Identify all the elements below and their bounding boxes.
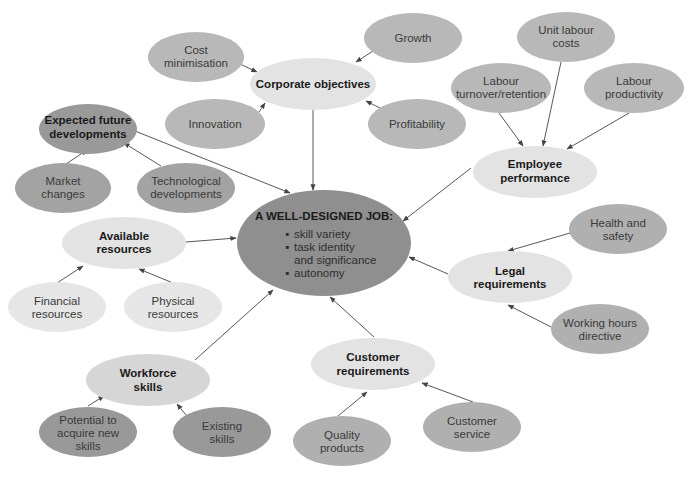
node-customer-service: Customer service	[423, 402, 521, 452]
label-line: acquire new	[57, 427, 120, 439]
label-line: skills	[134, 381, 163, 393]
label-line: Labour	[483, 75, 519, 87]
arrow-legal-to-central	[409, 257, 448, 274]
arrow-turnover-to-employee	[499, 113, 523, 146]
label-line: Health and	[590, 217, 646, 229]
label-line: Financial	[34, 295, 80, 307]
label-line: skills	[210, 433, 235, 445]
label-line: Working hours	[563, 317, 637, 329]
node-expected-future-developments: Expected future developments	[39, 104, 137, 154]
label-line: products	[320, 442, 364, 454]
bullet-significance: and significance	[294, 254, 376, 266]
label-line: Expected future	[45, 114, 132, 126]
node-labour-productivity: Labour productivity	[584, 63, 684, 113]
node-existing-skills: Existing skills	[173, 407, 271, 457]
arrow-innovation-to-corporate	[259, 103, 265, 112]
bullet-marker: ▪	[285, 228, 289, 240]
label-line: Innovation	[188, 118, 241, 130]
label-line: Workforce	[120, 367, 177, 379]
node-growth: Growth	[364, 13, 462, 63]
label-line: Technological	[151, 175, 221, 187]
label-line: Cost	[184, 44, 208, 56]
arrow-employee-to-central	[403, 168, 471, 221]
label-line: Customer	[447, 415, 497, 427]
label-line: minimisation	[164, 57, 228, 69]
node-customer-requirements: Customer requirements	[311, 338, 435, 390]
label-line: Quality	[324, 429, 360, 441]
bullet-marker: ▪	[285, 267, 289, 279]
label-line: requirements	[474, 278, 547, 290]
label-line: Potential to	[59, 414, 117, 426]
node-innovation: Innovation	[165, 99, 265, 149]
bullet-task-identity: task identity	[294, 241, 355, 253]
label-line: productivity	[605, 88, 663, 100]
label-line: resources	[148, 308, 199, 320]
label-line: resources	[97, 243, 152, 255]
arrow-potential-to-workforce	[88, 396, 104, 406]
label-line: Unit labour	[538, 24, 594, 36]
arrow-cost-to-corporate	[240, 64, 257, 72]
node-workforce-skills: Workforce skills	[86, 354, 210, 406]
node-labour-turnover: Labour turnover/retention	[451, 63, 551, 113]
label-line: performance	[500, 172, 570, 184]
label-line: Market	[45, 175, 81, 187]
node-profitability: Profitability	[368, 99, 466, 149]
arrow-existing-to-workforce	[177, 404, 186, 415]
arrow-customer-to-central	[330, 297, 374, 337]
label-line: Employee	[508, 158, 562, 170]
label-line: skills	[76, 440, 101, 452]
label-line: Legal	[495, 265, 525, 277]
arrow-unitlabour-to-employee	[543, 62, 561, 146]
bullet-skill-variety: skill variety	[294, 228, 350, 240]
label-line: safety	[603, 230, 634, 242]
node-health-and-safety: Health and safety	[569, 204, 667, 254]
label-line: Customer	[346, 351, 400, 363]
arrow-working-to-legal	[508, 305, 551, 327]
label-line: costs	[553, 37, 580, 49]
label-line: requirements	[337, 365, 410, 377]
label-line: turnover/retention	[456, 88, 546, 100]
node-potential-new-skills: Potential to acquire new skills	[39, 407, 137, 457]
arrow-profitability-to-corporate	[366, 101, 380, 108]
arrow-physical-to-available	[139, 269, 173, 283]
arrow-financial-to-available	[57, 266, 83, 283]
arrow-quality-to-customer	[338, 392, 367, 416]
bullet-marker: ▪	[285, 241, 289, 253]
node-physical-resources: Physical resources	[124, 282, 222, 332]
job-design-diagram: Cost minimisation Growth Corporate objec…	[0, 0, 693, 477]
label-line: service	[454, 428, 490, 440]
bullet-autonomy: autonomy	[294, 267, 345, 279]
node-cost-minimisation: Cost minimisation	[148, 32, 244, 82]
central-title: A WELL-DESIGNED JOB:	[255, 210, 393, 222]
label-line: Labour	[616, 75, 652, 87]
node-financial-resources: Financial resources	[8, 282, 106, 332]
arrow-growth-to-corporate	[356, 51, 373, 62]
label-line: resources	[32, 308, 83, 320]
node-unit-labour-costs: Unit labour costs	[517, 12, 615, 62]
label-line: developments	[49, 128, 126, 140]
node-employee-performance: Employee performance	[473, 146, 597, 198]
node-well-designed-job: A WELL-DESIGNED JOB: ▪ skill variety ▪ t…	[237, 190, 411, 296]
node-legal-requirements: Legal requirements	[448, 251, 572, 303]
arrow-available-to-central	[186, 238, 236, 242]
label-line: Available	[99, 230, 149, 242]
node-working-hours-directive: Working hours directive	[551, 304, 649, 354]
label-line: Physical	[152, 295, 195, 307]
label-line: changes	[41, 188, 85, 200]
node-market-changes: Market changes	[15, 163, 111, 213]
node-available-resources: Available resources	[62, 217, 186, 269]
node-quality-products: Quality products	[293, 416, 391, 466]
label-line: directive	[579, 330, 622, 342]
label-line: Existing	[202, 420, 242, 432]
node-technological-developments: Technological developments	[137, 163, 235, 213]
arrow-service-to-customer	[422, 383, 473, 402]
label-line: Corporate objectives	[256, 78, 370, 90]
arrow-productivity-to-employee	[567, 113, 629, 149]
arrow-health-to-legal	[508, 233, 570, 251]
arrow-tech-to-expected	[124, 143, 161, 166]
node-corporate-objectives: Corporate objectives	[250, 58, 376, 110]
label-line: developments	[150, 188, 222, 200]
label-line: Growth	[394, 32, 431, 44]
label-line: Profitability	[389, 118, 445, 130]
